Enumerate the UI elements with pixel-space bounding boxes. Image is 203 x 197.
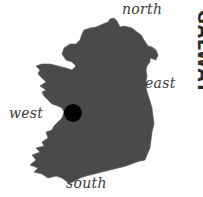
- ireland-map: north east west south GALWAY: [0, 0, 203, 197]
- west-label: west: [9, 105, 43, 121]
- ireland-landmass: [30, 18, 158, 183]
- galway-marker: [64, 104, 82, 122]
- title-text: GALWAY: [194, 10, 203, 94]
- south-label: south: [66, 175, 107, 191]
- east-label: east: [145, 75, 176, 91]
- vertical-title: GALWAY: [194, 10, 203, 110]
- ireland-outline: [0, 0, 203, 197]
- north-label: north: [122, 1, 162, 17]
